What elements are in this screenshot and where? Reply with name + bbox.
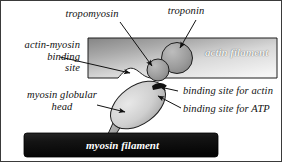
label-troponin: troponin xyxy=(148,5,224,17)
label-actin-myosin-binding-site-line3: site xyxy=(2,62,80,74)
myosin-globular-head-shape xyxy=(102,71,174,138)
label-actin-myosin-binding-site-line2: binding xyxy=(2,51,80,63)
label-actin-filament: actin filament xyxy=(205,46,268,58)
diagram-canvas: tropomyosin troponin actin-myosin bindin… xyxy=(0,0,282,162)
tropomyosin-shape xyxy=(147,59,169,81)
label-tropomyosin: tropomyosin xyxy=(52,8,132,20)
label-myosin-filament: myosin filament xyxy=(86,139,159,151)
label-myosin-globular-head-line1: myosin globular xyxy=(16,89,108,101)
label-binding-site-for-atp: binding site for ATP xyxy=(183,103,270,115)
label-actin-myosin-binding-site: actin-myosin binding site xyxy=(2,39,80,74)
label-myosin-globular-head-line2: head xyxy=(16,101,108,113)
label-actin-myosin-binding-site-line1: actin-myosin xyxy=(2,39,80,51)
diagram-graphics xyxy=(0,0,282,162)
label-binding-site-for-actin: binding site for actin xyxy=(183,85,273,97)
label-myosin-globular-head: myosin globular head xyxy=(16,89,108,112)
